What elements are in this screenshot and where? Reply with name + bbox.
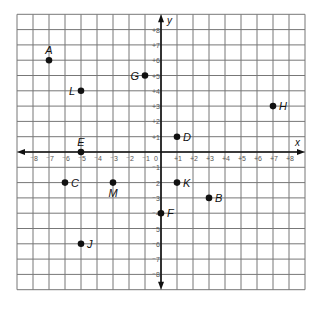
y-axis-arrow-up xyxy=(158,14,164,22)
x-tick-label: ⁻7 xyxy=(46,155,54,162)
x-axis-label: x xyxy=(294,137,301,148)
x-tick-label: +7 xyxy=(270,155,278,162)
y-tick-label: +6 xyxy=(152,57,160,64)
point-label-m: M xyxy=(108,187,118,199)
point-label-a: A xyxy=(44,44,52,56)
x-tick-label: +5 xyxy=(238,155,246,162)
point-g xyxy=(142,72,149,79)
y-tick-label: ⁻5 xyxy=(152,226,160,233)
x-tick-label: ⁻5 xyxy=(78,155,86,162)
point-label-h: H xyxy=(279,100,287,112)
y-tick-label: ⁻7 xyxy=(152,256,160,263)
y-tick-label: +7 xyxy=(152,42,160,49)
x-tick-label: +3 xyxy=(206,155,214,162)
x-tick-label: +6 xyxy=(254,155,262,162)
y-axis-arrow-down xyxy=(158,282,164,290)
x-axis-arrow-left xyxy=(17,149,25,155)
x-tick-label: ⁻8 xyxy=(30,155,38,162)
point-l xyxy=(78,88,85,95)
point-label-d: D xyxy=(183,131,191,143)
point-m xyxy=(110,179,117,186)
x-tick-label: +2 xyxy=(190,155,198,162)
y-axis-label: y xyxy=(166,15,173,26)
point-label-e: E xyxy=(77,136,85,148)
point-b xyxy=(206,195,213,202)
x-tick-label: ⁻2 xyxy=(126,155,134,162)
y-tick-label: ⁻8 xyxy=(152,271,160,278)
y-tick-label: +8 xyxy=(152,27,160,34)
y-tick-label: ⁻1 xyxy=(152,164,160,171)
x-axis-arrow-right xyxy=(297,149,305,155)
x-tick-label: ⁻4 xyxy=(94,155,102,162)
x-tick-label: ⁻3 xyxy=(110,155,118,162)
point-j xyxy=(78,241,85,248)
y-tick-label: ⁻2 xyxy=(152,180,160,187)
point-d xyxy=(174,133,181,140)
point-label-l: L xyxy=(69,85,75,97)
origin-label: 0 xyxy=(154,155,158,162)
y-tick-label: +5 xyxy=(152,73,160,80)
point-label-k: K xyxy=(183,177,191,189)
point-e xyxy=(78,149,85,156)
y-tick-label: +3 xyxy=(152,103,160,110)
point-c xyxy=(62,179,69,186)
x-tick-label: +8 xyxy=(286,155,294,162)
y-tick-label: +4 xyxy=(152,88,160,95)
point-k xyxy=(174,179,181,186)
axes: xy xyxy=(17,14,305,289)
point-label-g: G xyxy=(130,70,139,82)
point-label-j: J xyxy=(86,238,93,250)
y-tick-label: ⁻3 xyxy=(152,195,160,202)
point-label-c: C xyxy=(71,177,79,189)
point-h xyxy=(270,103,277,110)
y-tick-label: +2 xyxy=(152,118,160,125)
point-label-b: B xyxy=(215,192,222,204)
y-tick-label: ⁻6 xyxy=(152,241,160,248)
point-a xyxy=(46,57,53,64)
x-tick-label: ⁻1 xyxy=(142,155,150,162)
x-tick-label: +4 xyxy=(222,155,230,162)
coordinate-plane: xy ⁻8⁻7⁻6⁻5⁻4⁻3⁻2⁻1+1+2+3+4+5+6+7+80⁻8⁻7… xyxy=(0,0,316,312)
x-tick-label: ⁻6 xyxy=(62,155,70,162)
x-tick-label: +1 xyxy=(174,155,182,162)
point-f xyxy=(158,210,165,217)
y-tick-label: +1 xyxy=(152,134,160,141)
